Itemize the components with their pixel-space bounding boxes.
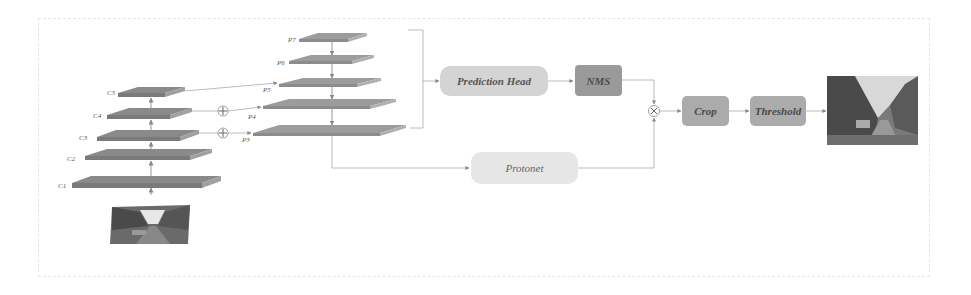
nms-block: NMS bbox=[575, 65, 622, 96]
label-c1: C1 bbox=[58, 182, 66, 190]
prediction-head-block: Prediction Head bbox=[440, 66, 548, 96]
diagram-graphics bbox=[0, 0, 971, 295]
arrow-nms-multiply bbox=[622, 80, 654, 104]
crop-label: Crop bbox=[694, 105, 717, 117]
label-p4: P4 bbox=[248, 113, 256, 121]
add-operator-p4 bbox=[218, 106, 228, 116]
arrow-protonet-multiply bbox=[578, 118, 654, 168]
backbone-layer-c3 bbox=[97, 130, 199, 141]
fpn-layer-p3 bbox=[253, 125, 406, 136]
protonet-block: Protonet bbox=[471, 152, 578, 184]
threshold-label: Threshold bbox=[755, 105, 801, 117]
diagram-canvas: C1 C2 C3 C4 C5 P7 P6 P5 P4 P3 Prediction… bbox=[0, 0, 971, 295]
backbone-layer-c2 bbox=[85, 149, 212, 160]
backbone-layer-c1 bbox=[72, 176, 221, 188]
backbone-layer-c5 bbox=[118, 87, 185, 97]
add-operator-p3 bbox=[218, 128, 228, 138]
output-image bbox=[827, 76, 918, 145]
label-p6: P6 bbox=[277, 59, 285, 67]
input-image bbox=[110, 205, 190, 244]
label-p7: P7 bbox=[288, 36, 296, 44]
arrow-p3-protonet bbox=[332, 136, 469, 168]
crop-block: Crop bbox=[682, 96, 729, 126]
label-c5: C5 bbox=[107, 89, 115, 97]
label-c4: C4 bbox=[93, 112, 101, 120]
label-p3: P3 bbox=[242, 136, 250, 144]
protonet-label: Protonet bbox=[505, 162, 543, 174]
fpn-layer-p6 bbox=[289, 55, 374, 64]
nms-label: NMS bbox=[587, 75, 611, 87]
label-c2: C2 bbox=[67, 155, 75, 163]
label-p5: P5 bbox=[263, 86, 271, 94]
prediction-head-label: Prediction Head bbox=[457, 75, 531, 87]
backbone-layer-c4 bbox=[107, 108, 192, 119]
threshold-block: Threshold bbox=[750, 96, 806, 126]
fpn-layer-p5 bbox=[279, 78, 381, 87]
multiply-operator bbox=[649, 106, 660, 117]
lateral-add-p4 bbox=[228, 107, 261, 111]
fpn-layer-p4 bbox=[263, 99, 396, 109]
label-c3: C3 bbox=[79, 134, 87, 142]
fpn-bracket bbox=[408, 30, 423, 128]
fpn-layer-p7 bbox=[299, 33, 367, 42]
